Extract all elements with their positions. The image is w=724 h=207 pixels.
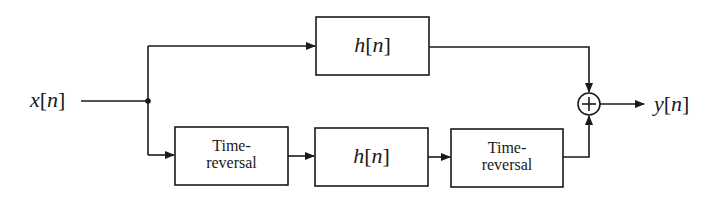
time-reversal-1-label: Time- reversal <box>175 138 288 172</box>
tr2-to-adder-line <box>563 116 589 157</box>
junction-dot <box>145 98 151 104</box>
output-label: y[n] <box>654 91 689 117</box>
bottom-filter-label: h[n] <box>315 143 428 169</box>
time-reversal-2-label: Time- reversal <box>451 140 563 174</box>
input-label: x[n] <box>30 87 65 113</box>
top-to-adder-line <box>429 47 589 92</box>
top-filter-label: h[n] <box>316 32 429 58</box>
